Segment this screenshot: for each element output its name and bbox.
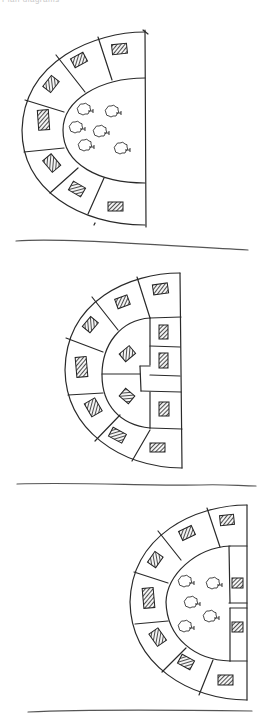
plan-diagrams: [0, 0, 265, 721]
separator-1: [16, 240, 248, 250]
plan-1-straight-wall: [145, 30, 146, 227]
separator-2: [17, 483, 256, 486]
plan-2-straight-wall: [180, 273, 182, 468]
plan-2-inner-wall: [102, 318, 150, 428]
plan-1: [22, 30, 148, 227]
plan-2: [65, 273, 182, 468]
plan-3: [130, 505, 247, 700]
separator-3: [28, 710, 252, 712]
